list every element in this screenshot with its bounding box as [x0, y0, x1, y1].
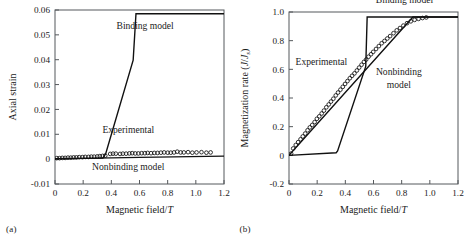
curve-annotation: Nonbinding [375, 66, 421, 77]
x-tick-label: 0.4 [339, 188, 351, 198]
series-binding-model [289, 17, 458, 155]
data-point [195, 151, 199, 155]
data-point [331, 97, 335, 101]
x-tick-label: 0.8 [395, 188, 407, 198]
data-point [303, 132, 307, 136]
y-tick-label: 0.02 [34, 105, 50, 115]
panel-b: 00.20.40.60.81.01.2-0.200.20.40.60.81.0M… [234, 0, 467, 238]
x-tick-label: 0.4 [106, 188, 118, 198]
plot-frame [289, 12, 458, 184]
figure-container: 00.20.40.60.81.01.2-0.0100.010.020.030.0… [0, 0, 467, 238]
curve-annotation: model [386, 79, 410, 90]
y-tick-label: 0 [279, 151, 284, 161]
curve-annotation: Nonbinding model [92, 161, 165, 172]
data-layer [289, 16, 458, 156]
y-tick-label: 1.0 [272, 7, 284, 17]
y-tick-label: 0.6 [272, 65, 284, 75]
curve-annotation: Experimental [102, 124, 154, 135]
data-point [186, 150, 190, 154]
panel-a-tag: (a) [6, 224, 17, 234]
y-tick-label: 0.03 [34, 80, 50, 90]
panel-b-plot: 00.20.40.60.81.01.2-0.200.20.40.60.81.0M… [234, 0, 467, 238]
x-tick-label: 0.8 [162, 188, 174, 198]
panel-a-plot: 00.20.40.60.81.01.2-0.0100.010.020.030.0… [0, 0, 233, 238]
x-tick-label: 1.0 [424, 188, 436, 198]
y-tick-label: 0 [45, 154, 50, 164]
x-tick-label: 0 [286, 188, 291, 198]
y-tick-label: -0.01 [31, 179, 51, 189]
x-axis-title: Magnetic field/T [340, 204, 408, 215]
series-experimental [55, 150, 213, 160]
y-tick-label: -0.2 [269, 179, 284, 189]
x-tick-label: 1.0 [190, 188, 202, 198]
series-nonbinding-model [289, 17, 458, 155]
data-point [388, 34, 392, 38]
y-tick-label: 0.04 [34, 55, 50, 65]
panel-a: 00.20.40.60.81.01.2-0.0100.010.020.030.0… [0, 0, 234, 238]
data-point [412, 18, 416, 22]
y-axis-title: Magnetization rate (J/Js) [239, 49, 252, 148]
x-axis-title: Magnetic field/T [106, 204, 174, 215]
y-tick-label: 0.2 [272, 122, 284, 132]
data-layer [55, 14, 224, 160]
data-point [322, 109, 326, 113]
x-tick-label: 1.2 [218, 188, 230, 198]
data-point [398, 26, 402, 30]
y-tick-label: 0.8 [272, 36, 284, 46]
curve-annotation: Binding model [116, 20, 174, 31]
panel-b-tag: (b) [240, 224, 251, 234]
curve-annotation: Experimental [295, 56, 347, 67]
y-tick-label: 0.05 [34, 30, 50, 40]
x-tick-label: 0.6 [134, 188, 146, 198]
series-binding-model [55, 14, 224, 159]
y-tick-label: 0.4 [272, 93, 284, 103]
data-point [209, 151, 213, 155]
x-tick-label: 0 [53, 188, 58, 198]
x-tick-label: 0.6 [367, 188, 379, 198]
data-point [200, 150, 204, 154]
x-tick-label: 0.2 [77, 188, 89, 198]
data-point [190, 151, 194, 155]
data-point [391, 31, 395, 35]
y-tick-label: 0.01 [34, 129, 50, 139]
y-tick-label: 0.06 [34, 5, 50, 15]
data-point [205, 151, 209, 155]
x-tick-label: 0.2 [311, 188, 323, 198]
x-tick-label: 1.2 [452, 188, 464, 198]
curve-annotation: Binding model [375, 0, 433, 5]
y-axis-title: Axial strain [7, 74, 18, 121]
